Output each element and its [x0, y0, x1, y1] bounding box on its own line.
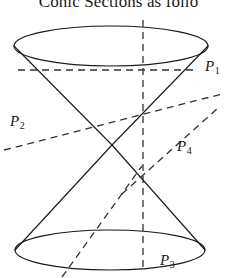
upper-cone-left-edge [14, 46, 112, 145]
plane-label-p3-base: P [160, 252, 169, 268]
top-rim-ellipse [14, 26, 208, 66]
plane-label-p2-base: P [10, 113, 19, 129]
cutting-plane-p3-line [62, 166, 142, 277]
plane-label-p3: P3 [160, 252, 174, 269]
plane-label-p1-base: P [205, 58, 214, 74]
lower-cone-left-edge [15, 145, 112, 250]
plane-label-p3-subscript: 3 [170, 259, 175, 270]
cutting-plane-p4-line [122, 108, 218, 194]
upper-cone-right-edge [112, 46, 208, 145]
double-cone-diagram [0, 0, 237, 278]
plane-label-p1: P1 [205, 58, 219, 75]
plane-label-p2-subscript: 2 [20, 120, 25, 131]
plane-label-p1-subscript: 1 [215, 65, 220, 76]
plane-label-p4-subscript: 4 [187, 145, 192, 156]
plane-label-p2: P2 [10, 113, 24, 130]
conic-sections-figure: Conic Sections as follo P1 P2 P4 P3 [0, 0, 237, 278]
plane-label-p4-base: P [177, 138, 186, 154]
plane-label-p4: P4 [177, 138, 191, 155]
bottom-rim-ellipse [15, 230, 205, 270]
